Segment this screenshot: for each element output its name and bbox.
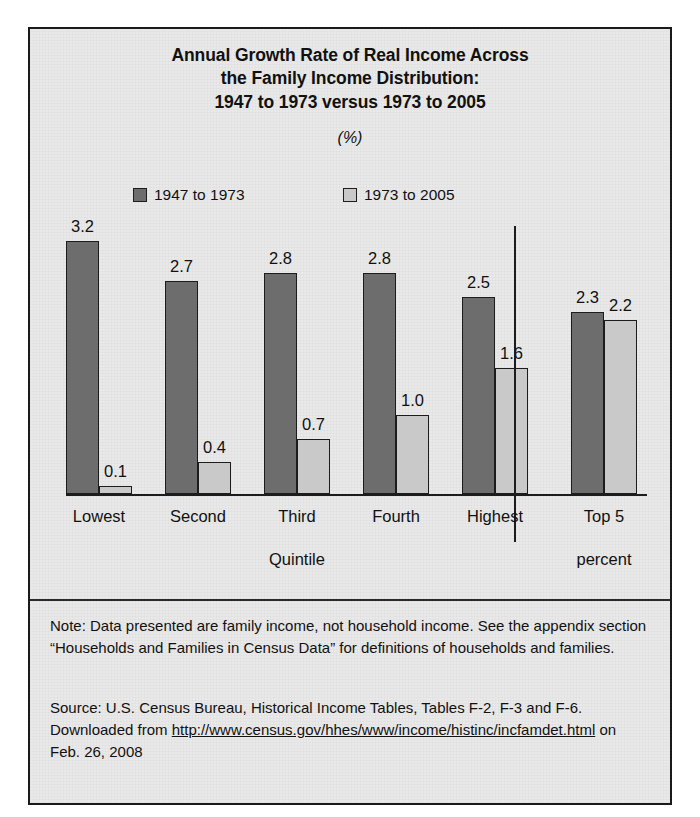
x-axis-label-top5-percent: percent bbox=[544, 550, 664, 569]
bar-1947-to-1973-top-5-percent bbox=[571, 312, 604, 494]
x-axis-title: Quintile bbox=[237, 550, 357, 569]
value-label-lowest-s1: 3.2 bbox=[58, 217, 107, 236]
section-divider-line bbox=[514, 226, 516, 542]
value-label-second-s1: 2.7 bbox=[157, 257, 206, 276]
value-label-third-s2: 0.7 bbox=[289, 415, 338, 434]
x-label-highest: Highest bbox=[435, 507, 555, 526]
value-label-second-s2: 0.4 bbox=[190, 438, 239, 457]
bar-1973-to-2005-fourth bbox=[396, 415, 429, 494]
footer-separator bbox=[30, 599, 670, 601]
bar-1973-to-2005-top-5-percent bbox=[604, 320, 637, 494]
bar-1973-to-2005-third bbox=[297, 439, 330, 494]
source-url-link[interactable]: http://www.census.gov/hhes/www/income/hi… bbox=[172, 721, 596, 738]
bar-1947-to-1973-lowest bbox=[66, 241, 99, 494]
figure-frame: Annual Growth Rate of Real Income Across… bbox=[28, 27, 672, 805]
value-label-fourth-s2: 1.0 bbox=[388, 391, 437, 410]
bar-1973-to-2005-highest bbox=[495, 368, 528, 494]
bar-1947-to-1973-fourth bbox=[363, 273, 396, 494]
plot-area: 3.20.12.70.42.80.72.81.02.51.62.32.2 Low… bbox=[30, 29, 672, 805]
x-label-top-5-percent: Top 5 bbox=[544, 507, 664, 526]
source-text: Source: U.S. Census Bureau, Historical I… bbox=[50, 697, 650, 763]
bar-1973-to-2005-lowest bbox=[99, 486, 132, 494]
bar-1947-to-1973-second bbox=[165, 281, 198, 494]
value-label-highest-s1: 2.5 bbox=[454, 273, 503, 292]
x-axis-line bbox=[66, 494, 647, 496]
bar-1947-to-1973-highest bbox=[462, 297, 495, 495]
value-label-lowest-s2: 0.1 bbox=[91, 462, 140, 481]
value-label-third-s1: 2.8 bbox=[256, 249, 305, 268]
bar-1947-to-1973-third bbox=[264, 273, 297, 494]
value-label-top-5-percent-s2: 2.2 bbox=[596, 296, 645, 315]
value-label-highest-s2: 1.6 bbox=[487, 344, 536, 363]
value-label-fourth-s1: 2.8 bbox=[355, 249, 404, 268]
note-text: Note: Data presented are family income, … bbox=[50, 615, 650, 659]
bar-1973-to-2005-second bbox=[198, 462, 231, 494]
